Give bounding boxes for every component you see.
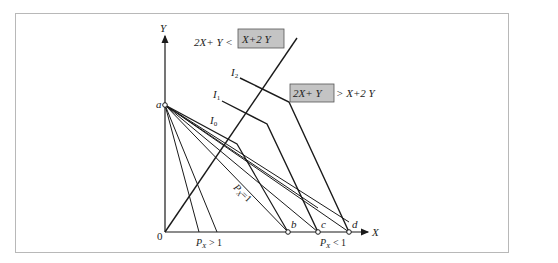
label-i1: I1 (212, 88, 221, 102)
point-d (347, 230, 352, 235)
inequality-right-boxed: 2X+ Y (293, 87, 323, 99)
indifference-diagram: Y X 0 a b c d I2 I1 I0 PX > 1 PX=1 PX < … (0, 0, 558, 263)
y-axis-label: Y (160, 22, 168, 34)
label-i0: I0 (209, 114, 218, 128)
label-a: a (156, 98, 162, 110)
label-px-gt-1: PX > 1 (195, 237, 222, 250)
inequality-top-boxed: X+2 Y (241, 33, 272, 45)
label-px-lt-1: PX < 1 (319, 237, 346, 250)
point-c (316, 230, 321, 235)
indifference-curve-i1 (222, 101, 318, 232)
inequality-top-left: 2X+ Y < (194, 36, 233, 48)
x-axis-label: X (371, 226, 380, 238)
point-b (286, 230, 291, 235)
label-b: b (291, 218, 297, 230)
inequality-right-rest: > X+2 Y (336, 87, 377, 99)
label-d: d (352, 218, 358, 230)
label-c: c (321, 218, 326, 230)
budget-lines (165, 105, 349, 232)
label-i2: I2 (230, 66, 239, 80)
origin-label: 0 (157, 230, 163, 242)
point-a (163, 103, 168, 108)
label-px-eq-1: PX=1 (229, 181, 254, 206)
